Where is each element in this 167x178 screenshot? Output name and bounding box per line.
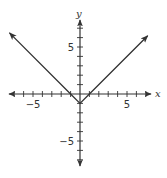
x-axis-label: x [155, 88, 161, 99]
y-tick-label: −5 [59, 136, 74, 147]
y-axis-label: y [75, 8, 82, 19]
graph: −555−5 x y [0, 0, 167, 178]
y-axis [77, 20, 83, 166]
x-tick-label: 5 [124, 99, 130, 110]
y-tick-label: 5 [68, 42, 74, 53]
x-tick-label: −5 [26, 99, 41, 110]
